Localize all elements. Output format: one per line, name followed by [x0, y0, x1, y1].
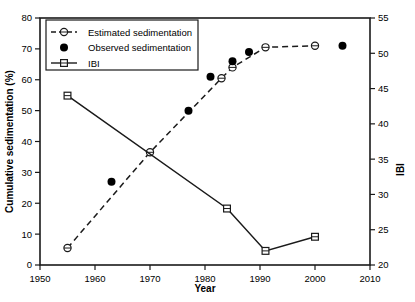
x-tick-label: 1960 — [84, 273, 105, 284]
y-tick-label: 60 — [21, 74, 32, 85]
y-tick-label: 20 — [21, 198, 32, 209]
x-axis-title: Year — [194, 283, 215, 294]
data-point — [207, 73, 215, 81]
x-tick-label: 1970 — [139, 273, 160, 284]
legend-label: Estimated sedimentation — [88, 27, 192, 38]
y-axis-title: Cumulative sedimentation (%) — [4, 70, 15, 213]
x-tick-label: 2010 — [359, 273, 380, 284]
data-point — [229, 57, 237, 65]
series-line — [68, 46, 316, 248]
chart-svg: 0102030405060708020253035404550551950196… — [0, 0, 415, 302]
y-tick-label: 80 — [21, 12, 32, 23]
legend-label: Observed sedimentation — [88, 42, 191, 53]
legend-label: IBI — [88, 58, 100, 69]
data-point — [339, 42, 347, 50]
chart-figure: 0102030405060708020253035404550551950196… — [0, 0, 415, 302]
y-tick-label: 40 — [21, 136, 32, 147]
y2-tick-label: 30 — [378, 189, 389, 200]
y-tick-label: 50 — [21, 105, 32, 116]
series-line — [68, 96, 316, 251]
x-tick-label: 1990 — [249, 273, 270, 284]
y2-tick-label: 40 — [378, 118, 389, 129]
y-tick-label: 0 — [27, 259, 32, 270]
y2-tick-label: 45 — [378, 83, 389, 94]
y2-axis-title: IBI — [395, 163, 406, 176]
legend-marker — [60, 44, 68, 52]
y-tick-label: 10 — [21, 229, 32, 240]
y2-tick-label: 55 — [378, 12, 389, 23]
x-tick-label: 2000 — [304, 273, 325, 284]
data-point — [185, 107, 193, 115]
y2-tick-label: 25 — [378, 224, 389, 235]
y2-tick-label: 50 — [378, 48, 389, 59]
y2-tick-label: 20 — [378, 259, 389, 270]
x-tick-label: 1950 — [29, 273, 50, 284]
y2-tick-label: 35 — [378, 154, 389, 165]
y-tick-label: 70 — [21, 43, 32, 54]
data-point — [245, 48, 253, 56]
y-tick-label: 30 — [21, 167, 32, 178]
data-point — [108, 178, 116, 186]
